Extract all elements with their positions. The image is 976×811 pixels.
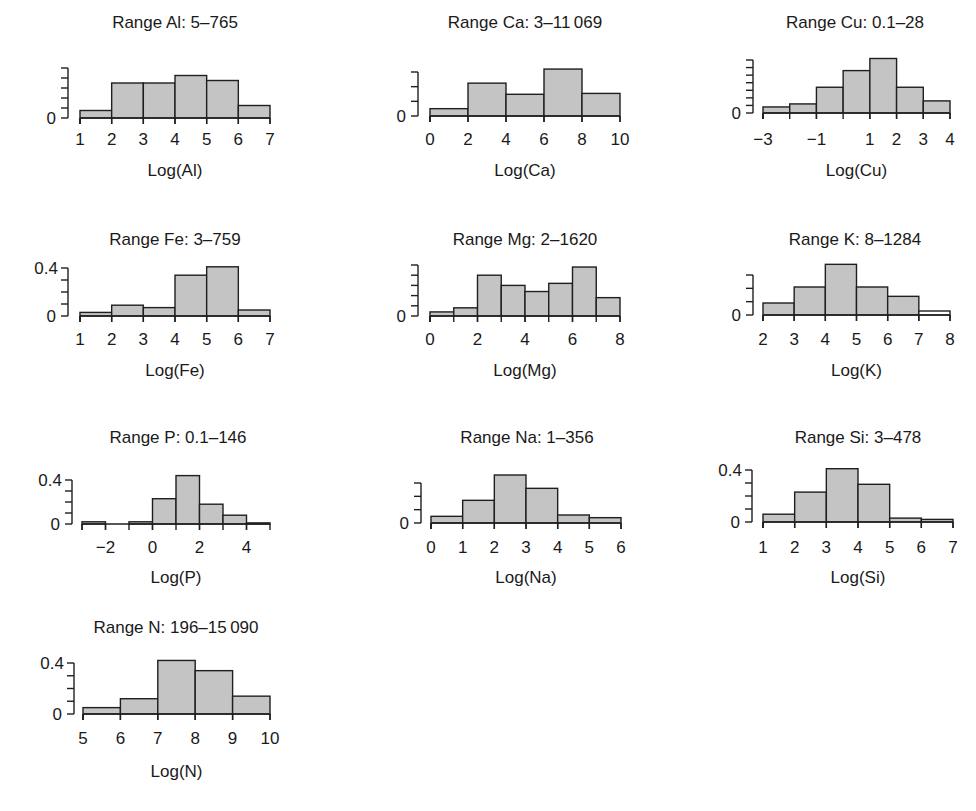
histogram-bar bbox=[233, 696, 270, 714]
y-tick-label: 0 bbox=[731, 513, 740, 532]
histogram-bar bbox=[143, 83, 175, 118]
x-tick-label: 0 bbox=[148, 538, 157, 557]
histogram-bar bbox=[431, 516, 463, 523]
histogram-bar bbox=[897, 87, 924, 113]
histogram-bar bbox=[223, 515, 247, 524]
x-tick-label: 2 bbox=[463, 130, 472, 149]
x-axis-label: Log(Fe) bbox=[145, 361, 205, 380]
x-tick-label: 7 bbox=[265, 130, 274, 149]
histogram-bar bbox=[763, 514, 795, 522]
x-axis-label: Log(Cu) bbox=[826, 161, 887, 180]
x-tick-label: 6 bbox=[539, 130, 548, 149]
y-tick-label: 0.4 bbox=[34, 259, 58, 278]
y-tick-label: 0 bbox=[732, 306, 741, 325]
y-tick-label: 0 bbox=[397, 107, 406, 126]
histogram-bar bbox=[468, 83, 506, 116]
x-tick-label: 2 bbox=[758, 330, 767, 349]
histogram-bar bbox=[589, 518, 621, 523]
panel-title: Range Fe: 3–759 bbox=[109, 230, 240, 249]
x-tick-label: 3 bbox=[789, 330, 798, 349]
histogram-bar bbox=[596, 298, 620, 316]
histogram-bar bbox=[526, 488, 558, 523]
histogram-panel: Range Si: 3–478123456700.4Log(Si) bbox=[718, 428, 957, 587]
histogram-bar bbox=[207, 267, 239, 316]
y-tick-label: 0 bbox=[732, 104, 741, 123]
x-axis-label: Log(Na) bbox=[495, 568, 556, 587]
x-tick-label: 4 bbox=[945, 130, 954, 149]
x-tick-label: 2 bbox=[490, 538, 499, 557]
x-tick-label: 8 bbox=[190, 729, 199, 748]
x-tick-label: 2 bbox=[790, 538, 799, 557]
x-tick-label: 3 bbox=[919, 130, 928, 149]
x-tick-label: 6 bbox=[616, 538, 625, 557]
histogram-bar bbox=[112, 83, 144, 118]
histogram-panel: Range N: 196–15 090567891000.4Log(N) bbox=[40, 618, 279, 781]
x-tick-label: 6 bbox=[883, 330, 892, 349]
panel-title: Range Cu: 0.1–28 bbox=[786, 13, 924, 32]
x-tick-label: 5 bbox=[202, 130, 211, 149]
panel-title: Range K: 8–1284 bbox=[789, 230, 921, 249]
histogram-panel: Range Ca: 3–11 06902468100Log(Ca) bbox=[397, 13, 630, 180]
histogram-bar bbox=[549, 283, 573, 316]
x-axis-label: Log(Al) bbox=[148, 161, 203, 180]
x-tick-label: 5 bbox=[78, 729, 87, 748]
x-tick-label: 4 bbox=[853, 538, 862, 557]
histogram-bar bbox=[430, 109, 468, 116]
x-tick-label: 2 bbox=[892, 130, 901, 149]
x-tick-label: 1 bbox=[75, 130, 84, 149]
histogram-bar bbox=[763, 303, 794, 315]
panel-title: Range Ca: 3–11 069 bbox=[448, 13, 602, 32]
histogram-bar bbox=[858, 484, 890, 522]
histogram-bar bbox=[573, 267, 597, 316]
x-tick-label: 5 bbox=[202, 330, 211, 349]
x-tick-label: 8 bbox=[577, 130, 586, 149]
histogram-bar bbox=[558, 515, 590, 523]
x-tick-label: 5 bbox=[585, 538, 594, 557]
x-tick-label: 4 bbox=[821, 330, 830, 349]
histogram-bar bbox=[200, 504, 224, 524]
histogram-panel: Range Cu: 0.1–28−3−112340Log(Cu) bbox=[732, 13, 955, 180]
x-tick-label: 6 bbox=[234, 130, 243, 149]
x-tick-label: 5 bbox=[885, 538, 894, 557]
x-tick-label: 9 bbox=[228, 729, 237, 748]
x-tick-label: 7 bbox=[265, 330, 274, 349]
x-axis-label: Log(K) bbox=[831, 361, 882, 380]
x-tick-label: 1 bbox=[865, 130, 874, 149]
x-tick-label: 4 bbox=[501, 130, 510, 149]
y-tick-label: 0 bbox=[47, 307, 56, 326]
x-axis-label: Log(Ca) bbox=[494, 161, 555, 180]
x-tick-label: 2 bbox=[195, 538, 204, 557]
histogram-bar bbox=[923, 101, 950, 113]
histogram-bar bbox=[525, 292, 549, 316]
histogram-bar bbox=[816, 87, 843, 113]
histogram-bar bbox=[238, 310, 270, 316]
x-tick-label: 3 bbox=[139, 330, 148, 349]
histogram-bar bbox=[83, 708, 120, 714]
x-tick-label: 4 bbox=[242, 538, 251, 557]
panel-title: Range P: 0.1–146 bbox=[109, 428, 246, 447]
x-tick-label: 0 bbox=[425, 330, 434, 349]
x-tick-label: 8 bbox=[615, 330, 624, 349]
histogram-panel: Range Mg: 2–1620024680Log(Mg) bbox=[397, 230, 625, 380]
panel-title: Range Mg: 2–1620 bbox=[453, 230, 598, 249]
x-tick-label: 7 bbox=[153, 729, 162, 748]
histogram-panel: Range P: 0.1–146−202400.4Log(P) bbox=[38, 428, 270, 587]
x-tick-label: 4 bbox=[170, 130, 179, 149]
histogram-bar bbox=[175, 275, 207, 316]
histogram-bar bbox=[870, 58, 897, 113]
y-tick-label: 0.4 bbox=[38, 471, 62, 490]
panel-title: Range Si: 3–478 bbox=[795, 428, 922, 447]
histogram-bar bbox=[544, 69, 582, 116]
panel-title: Range N: 196–15 090 bbox=[93, 618, 258, 637]
x-tick-label: 7 bbox=[914, 330, 923, 349]
x-tick-label: 10 bbox=[611, 130, 630, 149]
histogram-bar bbox=[463, 500, 495, 523]
panel-title: Range Al: 5–765 bbox=[112, 13, 238, 32]
x-tick-label: 2 bbox=[473, 330, 482, 349]
x-tick-label: 6 bbox=[116, 729, 125, 748]
histogram-panel: Range K: 8–128423456780Log(K) bbox=[732, 230, 955, 380]
x-axis-label: Log(P) bbox=[150, 568, 201, 587]
x-tick-label: −3 bbox=[753, 130, 772, 149]
histogram-bar bbox=[794, 287, 825, 315]
y-tick-label: 0 bbox=[51, 515, 60, 534]
